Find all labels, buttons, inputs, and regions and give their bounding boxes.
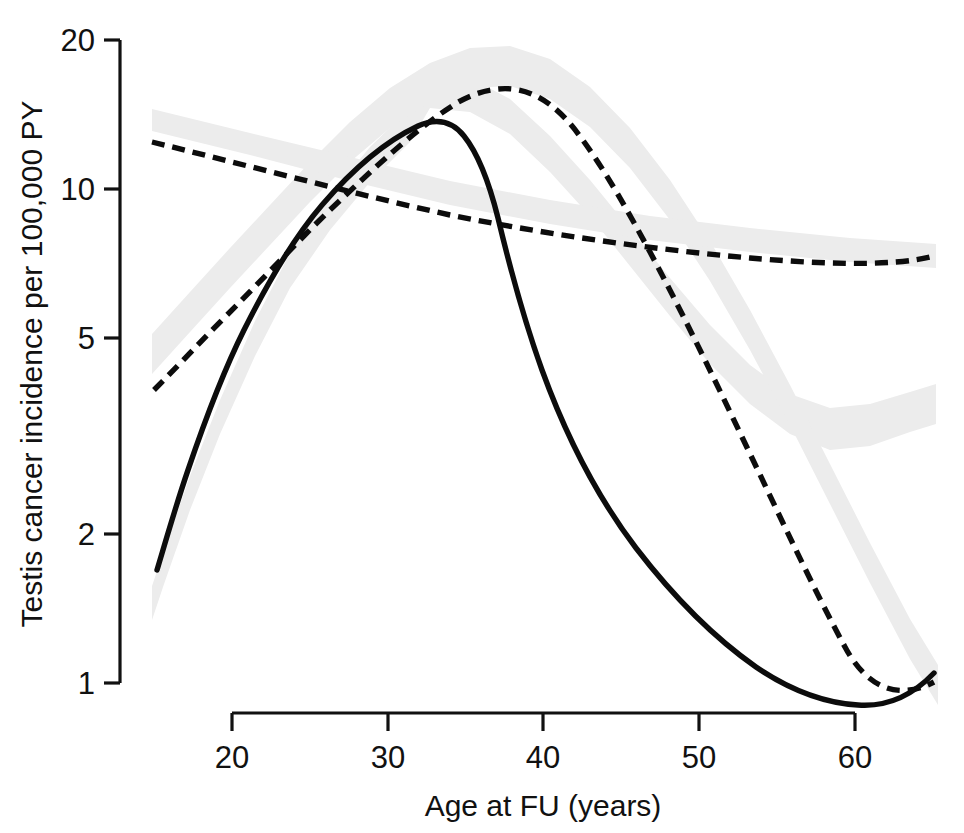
- chart-plot-area: 20 10 5 2 1 Testis cancer incidence per …: [0, 0, 964, 833]
- y-tick-label-1: 1: [78, 666, 95, 701]
- y-axis: 20 10 5 2 1 Testis cancer incidence per …: [15, 23, 120, 701]
- x-tick-label-30: 30: [371, 740, 405, 775]
- y-tick-label-5: 5: [78, 321, 95, 356]
- curve-dashed-peaked: [154, 89, 934, 691]
- x-tick-label-60: 60: [838, 740, 872, 775]
- chart-figure: 20 10 5 2 1 Testis cancer incidence per …: [0, 0, 964, 833]
- y-tick-label-20: 20: [61, 23, 95, 58]
- data-curves: [152, 89, 934, 706]
- y-tick-label-2: 2: [78, 517, 95, 552]
- y-tick-label-10: 10: [61, 172, 95, 207]
- x-axis: 20 30 40 50 60 Age at FU (years): [215, 713, 872, 822]
- x-tick-label-40: 40: [526, 740, 560, 775]
- x-tick-label-50: 50: [682, 740, 716, 775]
- x-axis-title: Age at FU (years): [425, 789, 662, 822]
- y-axis-title: Testis cancer incidence per 100,000 PY: [15, 101, 48, 628]
- x-tick-label-20: 20: [215, 740, 249, 775]
